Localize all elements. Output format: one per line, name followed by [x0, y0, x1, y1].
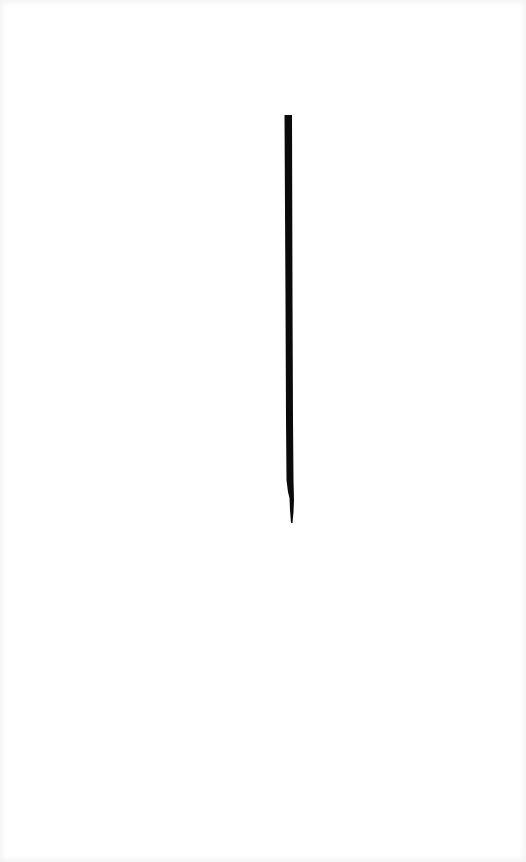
blank-canvas — [0, 0, 526, 862]
vertical-line-stroke — [0, 0, 526, 862]
